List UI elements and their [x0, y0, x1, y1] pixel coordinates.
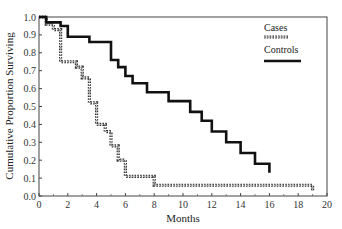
y-tick-label: 0.9 — [24, 29, 37, 40]
legend: Cases Controls — [264, 22, 301, 61]
legend-label-cases: Cases — [264, 22, 287, 33]
x-tick-label: 4 — [94, 199, 99, 210]
y-tick-label: 1.0 — [24, 12, 37, 23]
x-tick-label: 12 — [207, 199, 217, 210]
x-tick-label: 8 — [152, 199, 157, 210]
x-tick-label: 20 — [322, 199, 332, 210]
y-axis-title: Cumulative Proportion Surviving — [3, 32, 15, 180]
y-tick-label: 0.6 — [24, 83, 37, 94]
y-tick-label: 0.7 — [24, 65, 37, 76]
x-tick-label: 10 — [178, 199, 188, 210]
x-tick-label: 18 — [293, 199, 303, 210]
axis-ticks: 024681012141618200.00.10.20.30.40.50.60.… — [24, 12, 333, 211]
x-tick-label: 14 — [236, 199, 246, 210]
y-tick-label: 0.0 — [24, 191, 37, 202]
x-tick-label: 6 — [123, 199, 128, 210]
series-controls-line — [39, 17, 269, 173]
survival-chart: 024681012141618200.00.10.20.30.40.50.60.… — [0, 0, 342, 229]
y-tick-label: 0.2 — [24, 155, 37, 166]
x-axis-title: Months — [166, 212, 200, 224]
x-tick-label: 16 — [264, 199, 274, 210]
x-tick-label: 2 — [65, 199, 70, 210]
y-tick-label: 0.1 — [24, 173, 37, 184]
y-tick-label: 0.3 — [24, 137, 37, 148]
x-tick-label: 0 — [37, 199, 42, 210]
y-tick-label: 0.4 — [24, 119, 37, 130]
legend-label-controls: Controls — [264, 44, 299, 55]
y-tick-label: 0.8 — [24, 47, 37, 58]
y-tick-label: 0.5 — [24, 101, 37, 112]
